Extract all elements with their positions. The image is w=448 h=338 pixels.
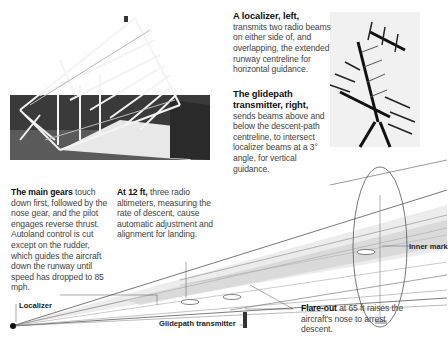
caption-body: touch down first, followed by the nose g… [11, 187, 107, 292]
caption-body: transmits two radio beams on either side… [233, 22, 331, 74]
caption-lead: Flare-out [301, 303, 337, 313]
localizer-photo-caption: A localizer, left, transmits two radio b… [233, 11, 333, 75]
at-12ft-caption: At 12 ft, three radio altimeters, measur… [117, 187, 217, 240]
caption-body: sends beams above and below the descent-… [233, 111, 325, 174]
glidepath-photo-caption: The glidepath transmitter, right, sends … [233, 89, 325, 174]
caption-heading: The glidepath transmitter, right, [233, 89, 325, 111]
caption-lead: At 12 ft, [117, 187, 148, 197]
flare-out-caption: Flare-out at 65 ft raises the aircraft's… [301, 303, 406, 335]
localizer-label: Localizer [19, 301, 52, 310]
main-gears-caption: The main gears touch down first, followe… [11, 187, 111, 293]
inner-marker-label: Inner mark [409, 242, 448, 251]
glidepath-transmitter-label: Glidepath transmitter [159, 319, 236, 328]
caption-heading: A localizer, left, [233, 11, 333, 22]
caption-lead: The main gears [11, 187, 73, 197]
